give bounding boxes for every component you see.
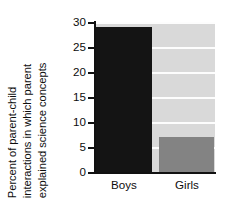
plot-area [95,22,215,172]
y-tick-mark [88,122,94,124]
y-axis-title-line-2: interactions in which parent [22,64,33,198]
y-tick-mark [88,147,94,149]
gridline [95,22,215,24]
bar-girls [159,137,214,172]
y-axis-title: Percent of parent-child interactions in … [2,0,64,204]
y-axis-tick-labels: 0 5 10 15 20 25 30 [62,0,86,204]
y-tick-label-15: 15 [64,91,86,103]
y-tick-mark [88,47,94,49]
bar-boys [96,27,152,172]
y-tick-mark [88,72,94,74]
y-tick-label-20: 20 [64,66,86,78]
y-tick-label-25: 25 [64,41,86,53]
y-axis-title-line-1: Percent of parent-child [7,87,18,198]
y-tick-mark [88,22,94,24]
y-tick-label-5: 5 [64,141,86,153]
y-tick-label-0: 0 [64,166,86,178]
y-tick-mark [88,172,94,174]
y-axis-title-line-3: explained science concepts [37,62,48,198]
x-axis-line [94,172,216,174]
y-axis-line [94,21,96,173]
x-tick-label-girls: Girls [158,179,216,191]
y-tick-label-30: 30 [64,16,86,28]
bar-chart-figure: Percent of parent-child interactions in … [0,0,226,204]
x-tick-label-boys: Boys [95,179,153,191]
y-tick-label-10: 10 [64,116,86,128]
y-tick-mark [88,97,94,99]
